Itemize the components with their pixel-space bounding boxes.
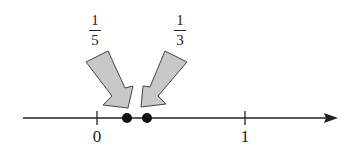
fraction-bar (89, 30, 101, 31)
fraction-one-third: 1 3 (174, 13, 186, 48)
arrow-one-third-icon (141, 51, 187, 107)
denominator: 5 (91, 32, 99, 48)
fraction-one-fifth: 1 5 (89, 13, 101, 48)
denominator: 3 (176, 32, 184, 48)
numerator: 1 (91, 12, 99, 28)
numerator: 1 (176, 12, 184, 28)
point-one-fifth (122, 113, 132, 123)
tick-label-0: 0 (91, 128, 103, 145)
axis-arrowhead-icon (324, 113, 338, 123)
point-one-third (142, 113, 152, 123)
tick-label-1: 1 (239, 128, 251, 145)
arrow-one-fifth-icon (86, 51, 133, 108)
fraction-bar (174, 30, 186, 31)
